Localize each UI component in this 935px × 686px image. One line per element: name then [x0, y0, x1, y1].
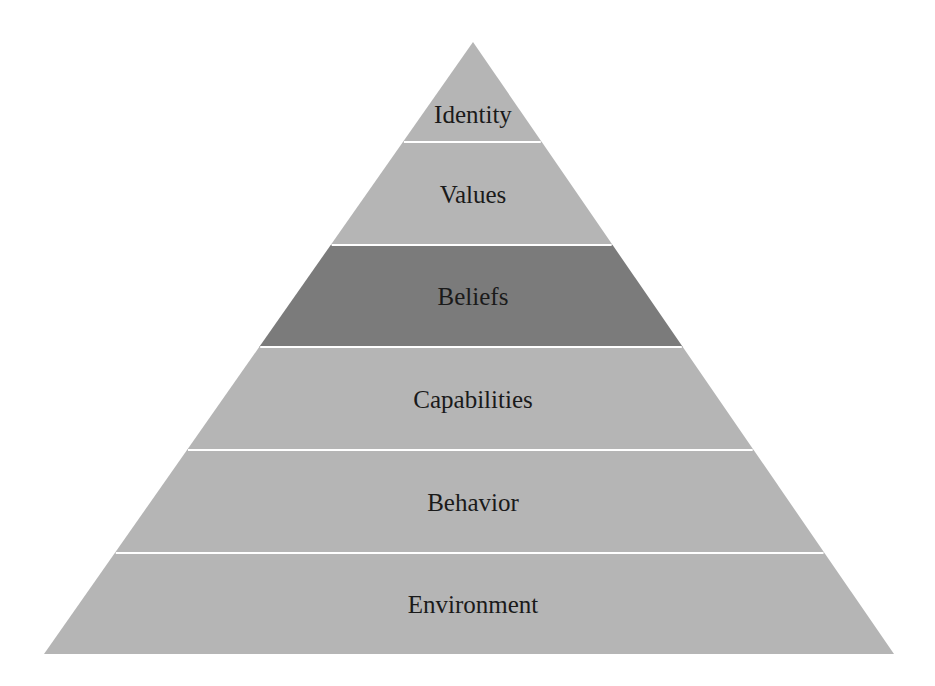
layer-label-values: Values: [440, 181, 507, 208]
layer-label-capabilities: Capabilities: [413, 386, 532, 413]
layer-label-environment: Environment: [408, 591, 539, 618]
layer-label-identity: Identity: [434, 101, 512, 128]
layer-label-behavior: Behavior: [427, 489, 519, 516]
logical-levels-pyramid: Identity Values Beliefs Capabilities Beh…: [0, 0, 935, 686]
layer-label-beliefs: Beliefs: [438, 283, 509, 310]
